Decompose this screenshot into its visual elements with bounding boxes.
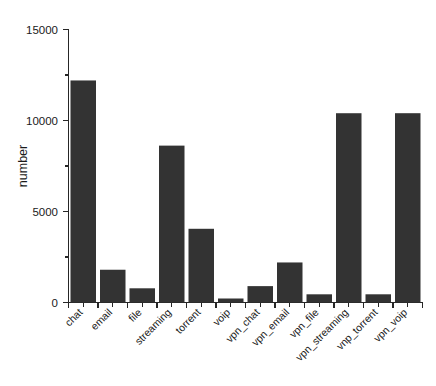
bar-vpn-file[interactable] (307, 294, 333, 302)
chart-figure: 0 5000 10000 15000 number (0, 0, 436, 386)
bar-chat[interactable] (71, 80, 97, 302)
y-tick-label: 10000 (26, 115, 58, 127)
y-tick-label: 0 (52, 297, 58, 309)
bar-vnp-torrent[interactable] (366, 294, 392, 302)
bar-chart: 0 5000 10000 15000 number (0, 0, 436, 386)
bar-streaming[interactable] (159, 146, 185, 303)
bar-torrent[interactable] (189, 229, 215, 303)
x-tick-label: voip (210, 306, 232, 328)
bar-vpn-email[interactable] (277, 262, 303, 302)
x-axis-tick-labels: chat email file streaming torrent voip v… (62, 306, 409, 363)
bar-vpn-chat[interactable] (248, 286, 274, 302)
x-tick-label: torrent (173, 306, 203, 336)
x-tick-label: chat (62, 306, 85, 329)
x-tick-label: email (88, 306, 114, 332)
y-tick-label: 5000 (32, 206, 58, 218)
x-tick-label: file (126, 306, 144, 324)
y-axis-tick-labels: 0 5000 10000 15000 (26, 24, 58, 309)
bar-file[interactable] (130, 288, 156, 302)
y-tick-label: 15000 (26, 24, 58, 36)
y-axis-title: number (16, 145, 30, 187)
bar-vpn-voip[interactable] (395, 113, 421, 302)
bar-voip[interactable] (218, 299, 244, 303)
bar-vpn-streaming[interactable] (336, 113, 362, 302)
bar-email[interactable] (100, 270, 126, 303)
bar-series (71, 80, 421, 302)
